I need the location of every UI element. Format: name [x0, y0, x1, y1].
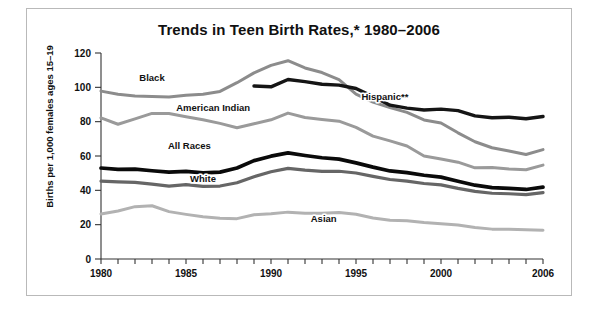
- series-label-all-races: All Races: [168, 140, 211, 151]
- line-chart-svg: 020406080100120198019851990199520002006B…: [27, 9, 573, 297]
- series-label-white: White: [190, 173, 216, 184]
- series-label-asian: Asian: [311, 213, 337, 224]
- series-label-hispanic: Hispanic**: [361, 91, 408, 102]
- y-axis-label: Births per 1,000 females ages 15–19: [44, 42, 55, 212]
- x-tick-label: 1980: [90, 268, 113, 279]
- y-tick-label: 40: [80, 185, 92, 196]
- series-label-american-indian: American Indian: [176, 102, 250, 113]
- y-tick-label: 80: [80, 116, 92, 127]
- x-tick-label: 1990: [260, 268, 283, 279]
- y-tick-label: 20: [80, 219, 92, 230]
- y-tick-label: 0: [85, 254, 91, 265]
- y-tick-label: 60: [80, 151, 92, 162]
- chart-figure: Trends in Teen Birth Rates,* 1980–2006 B…: [26, 8, 572, 296]
- y-tick-label: 120: [74, 48, 91, 59]
- x-tick-label: 1985: [175, 268, 198, 279]
- series-label-black: Black: [139, 72, 165, 83]
- plot-area: Births per 1,000 females ages 15–19 0204…: [27, 9, 573, 297]
- y-tick-label: 100: [74, 82, 91, 93]
- x-tick-label: 1995: [345, 268, 368, 279]
- x-tick-label: 2006: [532, 268, 555, 279]
- x-tick-label: 2000: [430, 268, 453, 279]
